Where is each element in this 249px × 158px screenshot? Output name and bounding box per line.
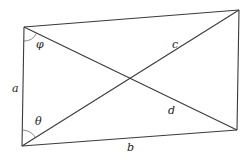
label-c: c: [172, 38, 178, 51]
label-theta: θ: [35, 115, 42, 128]
diagonal-d: [24, 27, 237, 130]
angle-phi-arc: [23, 33, 36, 41]
side-a: [22, 27, 24, 146]
label-phi: φ: [36, 38, 44, 51]
label-d: d: [168, 104, 175, 117]
label-b: b: [127, 141, 134, 154]
side-right: [237, 10, 239, 130]
label-a: a: [12, 82, 19, 95]
side-top: [24, 10, 239, 27]
quadrilateral-diagram: φ a θ c d b: [0, 0, 249, 158]
angle-theta-arc: [23, 130, 36, 138]
